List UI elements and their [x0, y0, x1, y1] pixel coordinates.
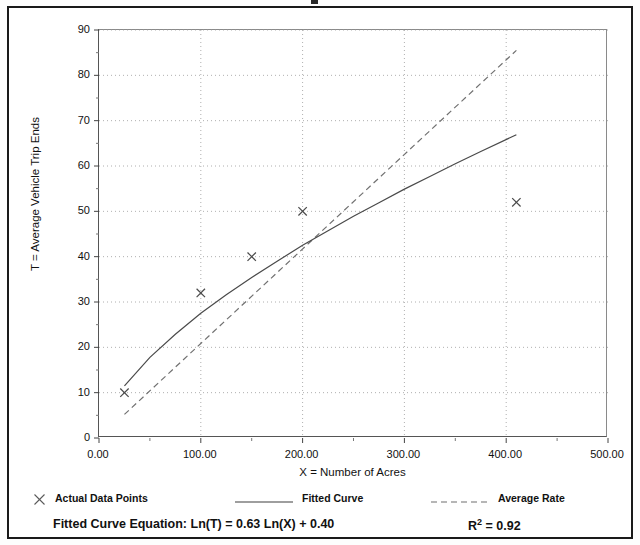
- data-point-marker: [197, 289, 205, 297]
- chart-region: T = Average Vehicle Trip Ends 0102030405…: [0, 0, 640, 545]
- dashed-line-icon: [431, 493, 489, 503]
- y-axis-tick-label: 0: [56, 431, 90, 443]
- legend-label-average-rate: Average Rate: [498, 492, 565, 504]
- y-axis-tick-label: 20: [56, 340, 90, 352]
- solid-line-icon: [235, 493, 293, 503]
- x-marker-icon: [33, 492, 46, 505]
- r-squared-exponent: 2: [477, 517, 482, 527]
- y-axis-tick-label: 40: [56, 250, 90, 262]
- data-point-marker: [512, 198, 520, 206]
- chart-page: T = Average Vehicle Trip Ends 0102030405…: [0, 0, 640, 545]
- x-axis-tick-label: 400.00: [470, 448, 540, 460]
- x-axis-tick-label: 0.00: [63, 448, 133, 460]
- x-axis-tick-label: 300.00: [368, 448, 438, 460]
- y-axis-tick-label: 50: [56, 204, 90, 216]
- data-point-marker: [248, 252, 256, 260]
- legend-item-average-rate: Average Rate: [431, 489, 565, 507]
- x-axis-title: X = Number of Acres: [98, 466, 607, 478]
- r-squared-number: = 0.92: [486, 519, 521, 533]
- legend-item-fitted-curve: Fitted Curve: [235, 489, 363, 507]
- legend-label-fitted-curve: Fitted Curve: [302, 492, 363, 504]
- series-line-average-rate: [124, 50, 516, 414]
- plot-area: [98, 29, 607, 437]
- legend-item-actual-data-points: Actual Data Points: [33, 489, 148, 507]
- y-axis-tick-label: 80: [56, 68, 90, 80]
- y-axis-tick-label: 90: [56, 23, 90, 35]
- y-axis-tick-label: 70: [56, 114, 90, 126]
- y-axis-tick-label: 30: [56, 295, 90, 307]
- x-axis-tick-label: 500.00: [572, 448, 640, 460]
- chart-footer: Fitted Curve Equation: Ln(T) = 0.63 Ln(X…: [20, 517, 620, 537]
- plot-canvas: [98, 29, 609, 439]
- x-axis-tick-label: 100.00: [165, 448, 235, 460]
- r-squared-value: R2 = 0.92: [468, 517, 521, 533]
- y-axis-tick-label: 10: [56, 386, 90, 398]
- y-axis-tick-label: 60: [56, 159, 90, 171]
- legend-label-actual-data-points: Actual Data Points: [55, 492, 148, 504]
- r-squared-symbol: R: [468, 519, 477, 533]
- chart-legend: Actual Data Points Fitted Curve Average …: [20, 489, 620, 507]
- series-line-fitted-curve: [124, 135, 516, 386]
- fitted-curve-equation: Fitted Curve Equation: Ln(T) = 0.63 Ln(X…: [53, 517, 334, 531]
- x-axis-tick-label: 200.00: [267, 448, 337, 460]
